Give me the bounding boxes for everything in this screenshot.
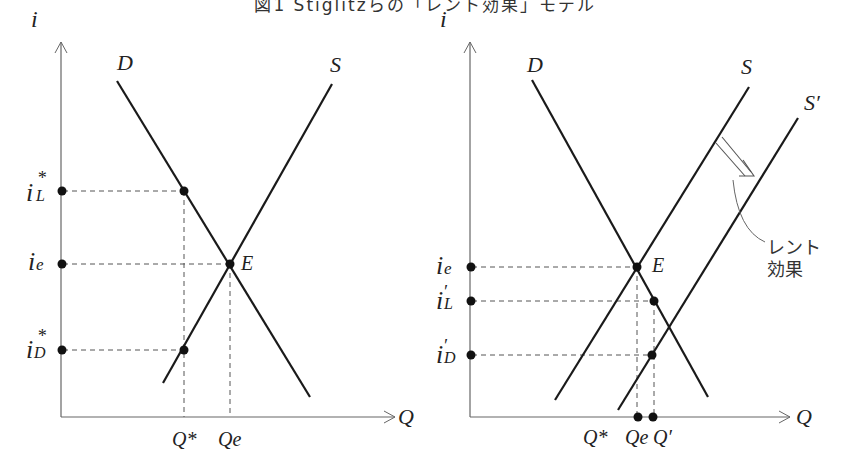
right-qe-label: Qe <box>625 426 648 448</box>
right-ie-label: i e <box>436 251 452 280</box>
right-points <box>467 263 659 422</box>
left-qe-label: Qe <box>218 428 241 450</box>
svg-text:*: * <box>37 326 46 346</box>
svg-text:e: e <box>36 255 44 274</box>
shift-arrow-icon <box>716 137 754 176</box>
right-supply-shifted-label: S′ <box>804 90 821 115</box>
annotation-effect-label: 効果 <box>767 259 803 280</box>
left-y-axis-label: i <box>31 6 38 32</box>
left-supply-label: S <box>330 52 341 77</box>
right-iD-prime-label: i D ′ <box>436 336 456 369</box>
right-iL-prime-label: i L ′ <box>436 282 453 315</box>
svg-text:D: D <box>33 344 46 361</box>
svg-text:L: L <box>35 187 45 204</box>
annotation-rent-label: レント <box>767 237 821 258</box>
right-equilibrium-label: E <box>651 254 664 276</box>
diagram-canvas: i Q D S E i L * i e i D * Q* Qe <box>0 0 850 465</box>
svg-text:i: i <box>26 335 33 364</box>
right-demand-curve <box>532 80 708 397</box>
right-supply-label: S <box>741 54 752 79</box>
right-panel: i Q D S S′ E i e i L ′ i D ′ Q* Qe Q′ レン… <box>436 6 821 448</box>
right-qprime-label: Q′ <box>653 426 672 448</box>
svg-text:*: * <box>37 168 46 188</box>
svg-text:e: e <box>444 259 452 278</box>
left-equilibrium-label: E <box>240 252 253 274</box>
left-iL-star-label: i L * <box>26 168 46 207</box>
left-x-axis-label: Q <box>398 404 414 429</box>
left-ie-label: i e <box>28 247 44 276</box>
right-x-axis-label: Q <box>796 404 812 429</box>
left-iD-star-label: i D * <box>26 326 46 364</box>
left-demand-label: D <box>116 50 133 75</box>
right-demand-label: D <box>526 52 543 77</box>
right-y-axis-label: i <box>440 6 447 32</box>
left-points <box>58 187 235 355</box>
svg-text:i: i <box>436 251 443 280</box>
svg-text:i: i <box>26 178 33 207</box>
annotation-leader-line <box>733 180 765 242</box>
left-panel: i Q D S E i L * i e i D * Q* Qe <box>26 6 414 450</box>
right-qstar-label: Q* <box>583 426 607 448</box>
left-qstar-label: Q* <box>172 428 196 450</box>
left-supply-curve <box>163 84 332 383</box>
svg-text:i: i <box>28 247 35 276</box>
